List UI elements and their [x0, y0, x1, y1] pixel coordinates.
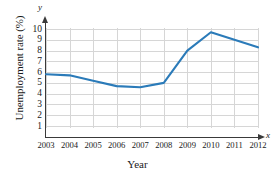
series-line-unemployment-rate	[0, 0, 275, 179]
data-polyline	[46, 32, 258, 87]
chart-screenshot: Unemployment rate (%) Year y x 123456789…	[0, 0, 275, 179]
